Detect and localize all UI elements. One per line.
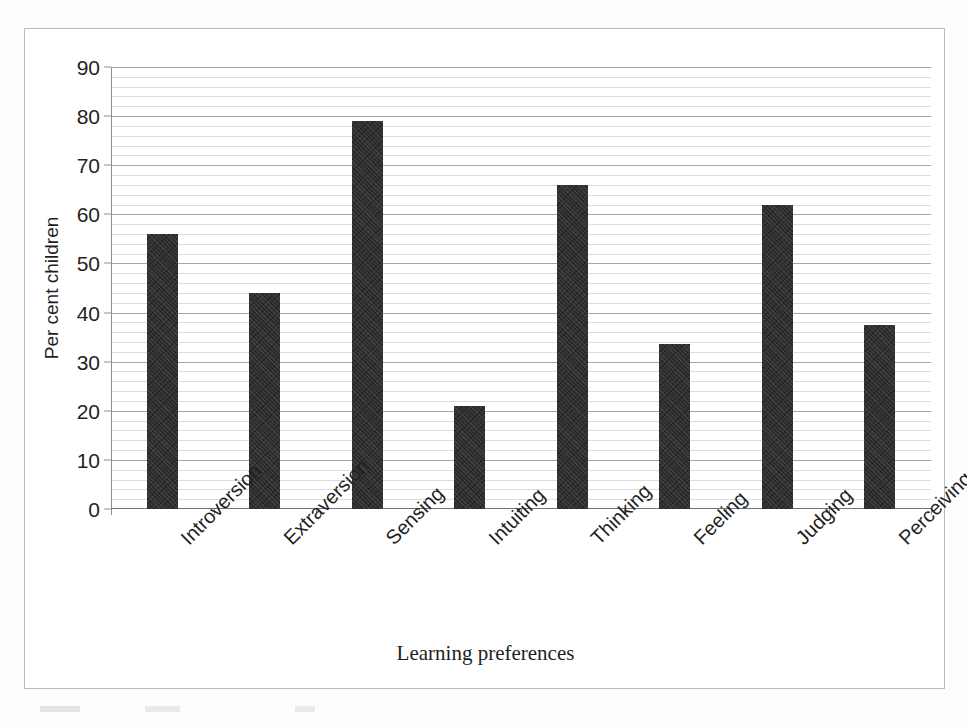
bar-chart: Per cent children 0102030405060708090 In… <box>25 29 946 690</box>
gridlines <box>111 67 931 509</box>
y-tick-mark <box>104 312 111 313</box>
plot-area: 0102030405060708090 IntroversionExtraver… <box>111 67 931 509</box>
y-tick-label: 30 <box>77 351 100 372</box>
bar <box>147 234 178 509</box>
y-tick-mark <box>104 459 111 460</box>
figure-frame: Per cent children 0102030405060708090 In… <box>24 28 945 689</box>
y-tick-label: 0 <box>88 499 100 520</box>
y-tick-label: 80 <box>77 106 100 127</box>
y-tick-label: 50 <box>77 253 100 274</box>
bar <box>352 121 383 509</box>
y-tick-label: 20 <box>77 400 100 421</box>
y-axis-line <box>111 67 112 509</box>
y-tick-mark <box>104 214 111 215</box>
y-tick-mark <box>104 410 111 411</box>
y-tick-mark <box>104 116 111 117</box>
bar <box>659 344 690 509</box>
bar <box>762 205 793 509</box>
y-tick-label: 10 <box>77 449 100 470</box>
x-axis-title: Learning preferences <box>25 641 946 666</box>
x-tick-label: Intuiting <box>485 534 499 548</box>
x-tick-label: Judging <box>792 534 806 548</box>
x-tick-label: Perceiving <box>895 534 909 548</box>
bar <box>557 185 588 509</box>
x-tick-label: Thinking <box>587 534 601 548</box>
scanned-page: Per cent children 0102030405060708090 In… <box>0 0 967 728</box>
y-tick-label: 90 <box>77 57 100 78</box>
y-tick-mark <box>104 67 111 68</box>
y-tick-label: 60 <box>77 204 100 225</box>
y-axis-title-text: Per cent children <box>41 217 63 360</box>
x-tick-label: Introversion <box>177 534 191 548</box>
y-tick-label: 70 <box>77 155 100 176</box>
y-axis-title: Per cent children <box>39 67 65 509</box>
x-tick-mark <box>111 509 112 515</box>
bar <box>454 406 485 509</box>
x-tick-label: Feeling <box>690 534 704 548</box>
y-tick-label: 40 <box>77 302 100 323</box>
scan-artifact <box>40 706 360 712</box>
x-tick-label: Sensing <box>382 534 396 548</box>
x-tick-label: Extraversion <box>280 534 294 548</box>
bar <box>864 325 895 509</box>
y-tick-mark <box>104 165 111 166</box>
y-tick-mark <box>104 263 111 264</box>
y-tick-mark <box>104 509 111 510</box>
y-tick-mark <box>104 361 111 362</box>
